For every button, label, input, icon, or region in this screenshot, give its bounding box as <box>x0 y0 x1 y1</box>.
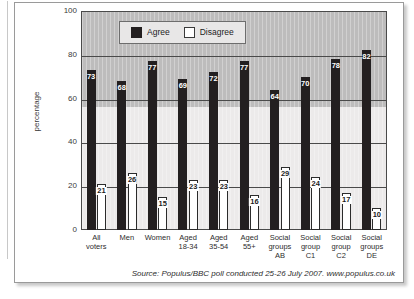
x-category-line: Aged <box>203 233 234 242</box>
legend-label-disagree: Disagree <box>200 28 234 37</box>
x-category-label: SocialgroupC1 <box>295 233 326 260</box>
bar-value-label-disagree: 10 <box>372 211 382 219</box>
y-tick-20: 20 <box>47 182 77 190</box>
bar-value-label-agree: 68 <box>118 84 126 92</box>
x-category-line: Men <box>112 233 143 242</box>
legend-item-agree: Agree <box>131 27 170 38</box>
bar-value-label-agree: 70 <box>301 80 309 88</box>
bar-chart: 020406080100 percentage 7321682677156923… <box>15 3 405 284</box>
x-category-line: 18-34 <box>173 242 204 251</box>
bar-value-label-disagree: 16 <box>249 198 259 206</box>
bar-value-label-agree: 73 <box>87 73 95 81</box>
y-axis-tick-labels: 020406080100 <box>43 11 77 230</box>
x-category-line: Social <box>265 233 296 242</box>
bar-group: 7024 <box>295 11 326 230</box>
x-category-line: DE <box>356 251 387 260</box>
bar-agree[interactable]: 64 <box>270 90 279 230</box>
bar-value-label-disagree: 23 <box>219 183 229 191</box>
legend-label-agree: Agree <box>147 28 170 37</box>
y-tick-80: 80 <box>47 51 77 59</box>
x-category-line: 55+ <box>234 242 265 251</box>
x-category-label: Aged18-34 <box>173 233 204 251</box>
x-category-line: Aged <box>173 233 204 242</box>
y-tick-60: 60 <box>47 95 77 103</box>
bar-value-label-agree: 72 <box>209 75 217 83</box>
y-axis-title: percentage <box>32 82 41 142</box>
chart-legend: Agree Disagree <box>119 21 246 44</box>
x-category-label: SocialgroupC2 <box>326 233 357 260</box>
bar-agree[interactable]: 70 <box>301 77 310 230</box>
x-category-label: Aged55+ <box>234 233 265 251</box>
x-category-line: All voters <box>81 233 112 251</box>
bar-value-label-disagree: 23 <box>188 183 198 191</box>
x-category-line: group <box>326 242 357 251</box>
bar-disagree[interactable]: 10 <box>372 208 381 230</box>
x-category-line: groups <box>265 242 296 251</box>
bar-value-label-agree: 77 <box>148 64 156 72</box>
bar-agree[interactable]: 72 <box>209 72 218 230</box>
x-category-label: All voters <box>81 233 112 251</box>
x-category-label: Women <box>142 233 173 242</box>
bar-disagree[interactable]: 23 <box>219 180 228 230</box>
bar-value-label-disagree: 26 <box>127 176 137 184</box>
x-category-label: SocialgroupsAB <box>265 233 296 260</box>
bar-group: 7321 <box>81 11 112 230</box>
bar-value-label-disagree: 17 <box>341 196 351 204</box>
bar-agree[interactable]: 82 <box>362 50 371 230</box>
bar-agree[interactable]: 68 <box>117 81 126 230</box>
bar-agree[interactable]: 78 <box>331 59 340 230</box>
y-tick-0: 0 <box>47 226 77 234</box>
legend-swatch-disagree <box>184 27 195 38</box>
x-category-label: Aged35-54 <box>203 233 234 251</box>
bar-disagree[interactable]: 26 <box>128 173 137 230</box>
x-category-line: Women <box>142 233 173 242</box>
bar-disagree[interactable]: 16 <box>250 195 259 230</box>
x-category-line: AB <box>265 251 296 260</box>
x-category-line: group <box>295 242 326 251</box>
bar-group: 7817 <box>326 11 357 230</box>
x-category-line: Aged <box>234 233 265 242</box>
bar-value-label-disagree: 21 <box>96 187 106 195</box>
x-category-line: C2 <box>326 251 357 260</box>
x-category-line: Social <box>356 233 387 242</box>
x-category-line: Social <box>326 233 357 242</box>
legend-item-disagree: Disagree <box>184 27 234 38</box>
bar-value-label-disagree: 15 <box>158 200 168 208</box>
y-tick-100: 100 <box>47 7 77 15</box>
x-category-line: groups <box>356 242 387 251</box>
bar-value-label-disagree: 29 <box>280 170 290 178</box>
bar-disagree[interactable]: 23 <box>189 180 198 230</box>
bar-value-label-disagree: 24 <box>311 180 321 188</box>
x-category-line: C1 <box>295 251 326 260</box>
x-category-label: Men <box>112 233 143 242</box>
x-category-line: Social <box>295 233 326 242</box>
bar-value-label-agree: 82 <box>362 53 370 61</box>
bar-agree[interactable]: 69 <box>178 79 187 230</box>
y-tick-40: 40 <box>47 138 77 146</box>
x-category-label: SocialgroupsDE <box>356 233 387 260</box>
bar-disagree[interactable]: 21 <box>97 184 106 230</box>
bar-value-label-agree: 77 <box>240 64 248 72</box>
bar-value-label-agree: 64 <box>271 93 279 101</box>
bar-group: 8210 <box>356 11 387 230</box>
bar-agree[interactable]: 77 <box>240 61 249 230</box>
bar-disagree[interactable]: 17 <box>342 193 351 230</box>
bar-disagree[interactable]: 15 <box>158 197 167 230</box>
bar-agree[interactable]: 77 <box>148 61 157 230</box>
bar-value-label-agree: 69 <box>179 82 187 90</box>
bar-agree[interactable]: 73 <box>87 70 96 230</box>
bar-disagree[interactable]: 24 <box>311 177 320 230</box>
bar-group: 6429 <box>265 11 296 230</box>
legend-swatch-agree <box>131 27 142 38</box>
bar-disagree[interactable]: 29 <box>281 167 290 231</box>
figure-frame: 020406080100 percentage 7321682677156923… <box>14 2 404 283</box>
x-axis-category-labels: All votersMenWomenAged18-34Aged35-54Aged… <box>81 233 387 267</box>
bar-value-label-agree: 78 <box>332 62 340 70</box>
x-category-line: 35-54 <box>203 242 234 251</box>
source-note: Source: Populus/BBC poll conducted 25-26… <box>15 269 399 278</box>
